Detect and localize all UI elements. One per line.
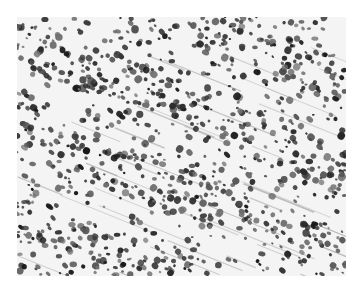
tissue-texture <box>17 17 346 276</box>
micrograph-image <box>17 17 346 276</box>
